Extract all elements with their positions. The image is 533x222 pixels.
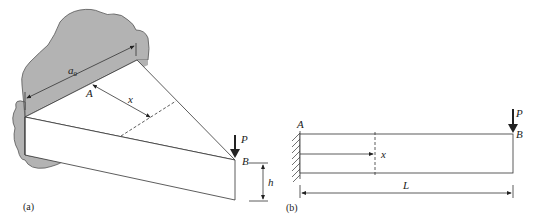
- point-a-label-b: A: [296, 118, 304, 130]
- fixed-support-hatch: [292, 133, 300, 182]
- caption-b: (b): [286, 202, 298, 214]
- height-label: h: [268, 176, 274, 188]
- load-label: P: [240, 133, 248, 145]
- cantilever-beam: [300, 134, 513, 173]
- caption-a: (a): [23, 201, 34, 213]
- point-a-label: A: [85, 87, 93, 99]
- load-label-b: P: [515, 107, 523, 119]
- figure-a: a0 A x P B h (a): [13, 9, 274, 213]
- point-b-label: B: [242, 155, 249, 167]
- distance-x-label: x: [127, 93, 133, 105]
- figure-canvas: a0 A x P B h (a): [0, 0, 533, 222]
- distance-x-label-b: x: [380, 148, 386, 160]
- figure-b: x A B P L (b): [286, 107, 523, 214]
- length-label: L: [402, 179, 409, 191]
- point-b-label-b: B: [516, 128, 523, 140]
